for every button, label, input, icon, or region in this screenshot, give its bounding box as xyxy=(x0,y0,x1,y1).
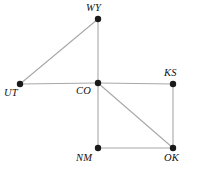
graph-node-label-ks: KS xyxy=(164,68,177,79)
graph-edge-co-ok xyxy=(98,83,173,148)
graph-node-label-ut: UT xyxy=(4,88,18,99)
graph-canvas xyxy=(0,0,200,177)
graph-edge-ut-wy xyxy=(20,19,98,84)
graph-node-wy[interactable] xyxy=(95,16,101,22)
graph-node-ks[interactable] xyxy=(170,81,176,87)
graph-edge-co-ks xyxy=(98,83,173,84)
graph-node-ok[interactable] xyxy=(170,145,176,151)
constraint-graph-figure: WYUTCOKSNMOK xyxy=(0,0,200,177)
graph-edge-ut-co xyxy=(20,83,98,84)
graph-node-nm[interactable] xyxy=(95,145,101,151)
graph-node-label-wy: WY xyxy=(86,3,101,14)
graph-node-label-ok: OK xyxy=(164,153,179,164)
graph-node-co[interactable] xyxy=(95,80,101,86)
graph-node-label-co: CO xyxy=(76,86,91,97)
graph-node-label-nm: NM xyxy=(76,153,92,164)
